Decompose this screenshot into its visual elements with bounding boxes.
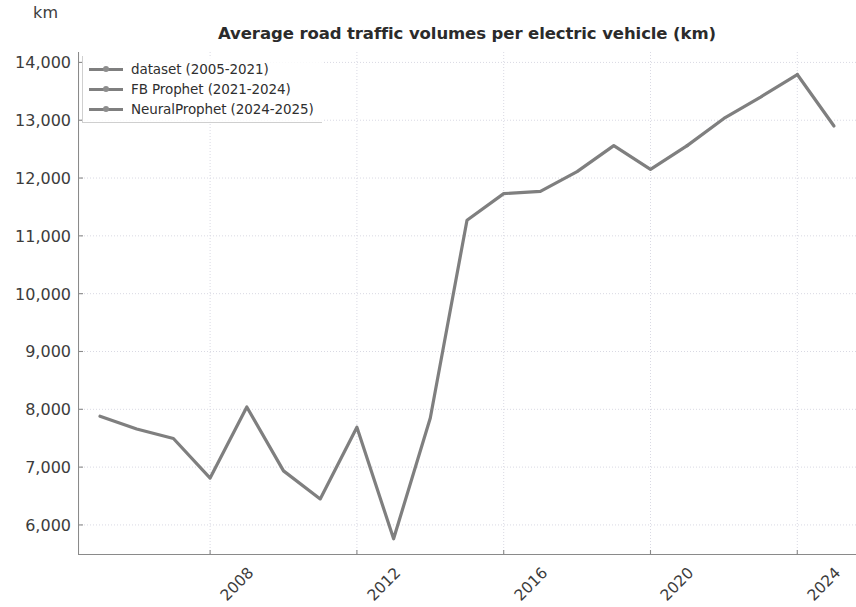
legend-item-label: dataset (2005-2021) [131,61,269,77]
y-tick-label: 8,000 [1,400,71,419]
legend-line-marker-icon [89,104,123,114]
legend-line-marker-icon [89,64,123,74]
chart-figure: km Average road traffic volumes per elec… [0,0,856,607]
plot-area: dataset (2005-2021)FB Prophet (2021-2024… [78,52,856,555]
axis-lines [78,52,856,555]
x-axis-tick-labels: 20082012201620202024 [78,555,856,607]
x-tick-label: 2020 [657,564,698,605]
series-line-1 [687,75,797,146]
legend-line-marker-icon [89,84,123,94]
grid-lines [78,52,856,555]
series-line-2 [797,75,834,126]
tick-marks [78,62,797,555]
y-axis-tick-labels: 6,0007,0008,0009,00010,00011,00012,00013… [0,52,71,555]
y-axis-unit-label: km [33,3,58,22]
legend-item-label: FB Prophet (2021-2024) [131,81,291,97]
chart-title: Average road traffic volumes per electri… [78,24,856,43]
y-tick-label: 10,000 [1,284,71,303]
x-tick-label: 2024 [804,564,845,605]
y-tick-label: 13,000 [1,111,71,130]
series-line-0 [100,146,687,539]
legend-item: dataset (2005-2021) [89,60,314,78]
x-tick-label: 2012 [364,564,405,605]
y-tick-label: 9,000 [1,342,71,361]
legend-item: FB Prophet (2021-2024) [89,80,314,98]
y-tick-label: 12,000 [1,169,71,188]
x-tick-label: 2008 [217,564,258,605]
chart-legend: dataset (2005-2021)FB Prophet (2021-2024… [82,56,322,123]
legend-item: NeuralProphet (2024-2025) [89,100,314,118]
legend-item-label: NeuralProphet (2024-2025) [131,101,314,117]
y-tick-label: 14,000 [1,53,71,72]
plot-svg [78,52,856,555]
x-tick-label: 2016 [510,564,551,605]
y-tick-label: 6,000 [1,515,71,534]
y-tick-label: 11,000 [1,226,71,245]
y-tick-label: 7,000 [1,458,71,477]
